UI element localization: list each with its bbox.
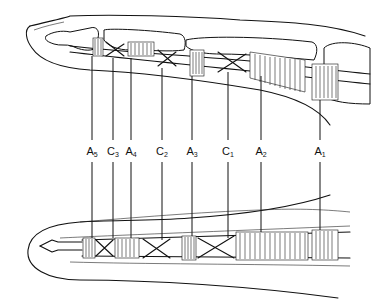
label-C2: C2 <box>156 145 168 161</box>
label-A3: A3 <box>186 145 197 161</box>
pulley-diagram: A5 C3 A4 C2 A3 C1 A2 A1 <box>0 0 384 306</box>
label-A4: A4 <box>125 145 136 161</box>
label-A2: A2 <box>255 145 266 161</box>
label-C3: C3 <box>107 145 119 161</box>
lateral-view <box>26 15 370 125</box>
palmar-view <box>28 195 350 298</box>
label-A1: A1 <box>314 145 325 161</box>
label-A5: A5 <box>86 145 97 161</box>
label-C1: C1 <box>222 145 234 161</box>
